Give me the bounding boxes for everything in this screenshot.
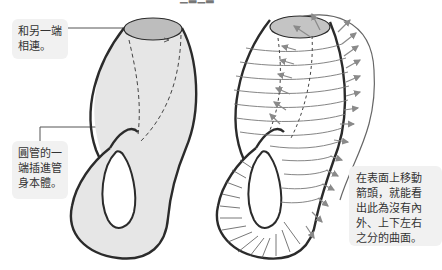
callout-line: 和另一端 [18, 24, 62, 39]
callout-line: 出此為沒有內 [356, 201, 436, 216]
left-opening [124, 18, 182, 40]
left-klein-bottle [71, 18, 196, 259]
callout-line: 圓管的一 [18, 146, 62, 161]
callout-line: 在表面上移動 [356, 171, 436, 186]
callout-line: 外、上下左右 [356, 216, 436, 231]
callout-line: 之分的曲面。 [356, 231, 436, 246]
callout-line: 身本體。 [18, 176, 62, 191]
callout-no-inside-outside: 在表面上移動 箭頭，就能看 出此為沒有內 外、上下左右 之分的曲面。 [349, 166, 442, 246]
callout-line: 相連。 [18, 39, 62, 54]
callout-line: 箭頭，就能看 [356, 186, 436, 201]
callout-tube-inserted: 圓管的一 端插進管 身本體。 [12, 141, 68, 199]
klein-bottle-diagram: ▁▂▁▂ [0, 0, 442, 270]
callout-line: 端插進管 [18, 161, 62, 176]
right-opening [270, 16, 330, 38]
callout-connects-other-end: 和另一端 相連。 [12, 19, 68, 59]
